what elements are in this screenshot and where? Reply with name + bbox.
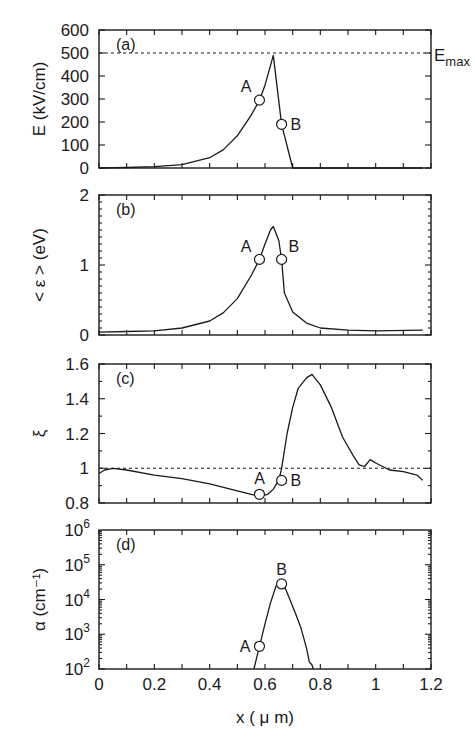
point-label-a: A: [240, 638, 251, 655]
y-tick-label: 100: [61, 136, 89, 155]
point-label-b: B: [291, 472, 302, 489]
x-tick-label: 0: [94, 675, 103, 694]
y-tick-label: 500: [61, 44, 89, 63]
point-label-a: A: [241, 238, 252, 255]
y-tick-label: 103: [64, 621, 90, 644]
y-tick-label: 1.2: [65, 425, 89, 444]
panel-label: (c): [116, 370, 135, 387]
point-marker-b: [277, 475, 287, 485]
x-tick-label: 0.8: [309, 675, 333, 694]
y-axis-label: α (cm⁻¹): [30, 568, 49, 631]
y-tick-label: 104: [64, 587, 90, 610]
y-tick-label: 0.8: [65, 494, 89, 513]
plot-frame: [99, 195, 431, 335]
point-label-a: A: [241, 78, 252, 95]
point-marker-a: [254, 254, 264, 264]
x-axis-label: x ( μ m): [236, 708, 294, 727]
y-tick-label: 102: [64, 656, 90, 679]
x-tick-label: 1.2: [419, 675, 443, 694]
plot-frame: [99, 364, 431, 503]
data-curve: [254, 582, 314, 669]
point-marker-b: [277, 119, 287, 129]
emax-label: Emax: [434, 46, 470, 69]
point-label-a: A: [254, 470, 265, 487]
y-tick-label: 600: [61, 21, 89, 40]
panel-b-energy: 012< ε > (eV)(b)AB: [30, 186, 431, 345]
x-tick-label: 0.2: [143, 675, 167, 694]
point-marker-a: [254, 489, 264, 499]
x-tick-label: 1: [371, 675, 380, 694]
data-curve: [99, 55, 423, 168]
y-axis-label: ξ: [30, 429, 49, 437]
plot-frame: [99, 30, 431, 168]
x-tick-label: 0.6: [253, 675, 277, 694]
y-tick-label: 300: [61, 90, 89, 109]
panel-label: (b): [116, 201, 136, 218]
data-curve: [99, 227, 423, 333]
y-tick-label: 200: [61, 113, 89, 132]
point-marker-a: [254, 641, 264, 651]
y-tick-label: 1: [80, 256, 89, 275]
y-tick-label: 106: [64, 517, 90, 540]
panel-label: (a): [116, 36, 136, 53]
y-tick-label: 1: [80, 459, 89, 478]
y-tick-label: 1.4: [65, 390, 89, 409]
panel-a-field: 0100200300400500600E (kV/cm)(a)EmaxAB: [30, 21, 470, 178]
x-tick-label: 0.4: [198, 675, 222, 694]
panel-d-alpha: 10210310410510600.20.40.60.811.2α (cm⁻¹)…: [30, 517, 443, 727]
panel-c-xi: 0.811.21.41.6ξ(c)AB: [30, 355, 431, 513]
y-tick-label: 0: [80, 326, 89, 345]
y-tick-label: 400: [61, 67, 89, 86]
y-tick-label: 1.6: [65, 355, 89, 374]
plot-frame: [99, 530, 431, 669]
point-marker-b: [277, 579, 287, 589]
figure: 0100200300400500600E (kV/cm)(a)EmaxAB 01…: [0, 0, 475, 738]
y-axis-label: E (kV/cm): [30, 62, 49, 137]
point-label-b: B: [289, 238, 300, 255]
y-tick-label: 105: [64, 552, 90, 575]
panel-label: (d): [116, 536, 136, 553]
point-label-b: B: [291, 116, 302, 133]
y-tick-label: 0: [80, 159, 89, 178]
y-axis-label: < ε > (eV): [30, 228, 49, 302]
point-marker-a: [254, 95, 264, 105]
point-marker-b: [277, 254, 287, 264]
point-label-b: B: [276, 561, 287, 578]
y-tick-label: 2: [80, 186, 89, 205]
